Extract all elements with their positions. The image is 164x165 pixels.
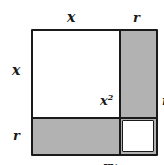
area-label-rx-right: rx <box>162 95 164 108</box>
outer-square-outline <box>31 29 158 156</box>
area-label-x-squared-exponent: 2 <box>108 92 114 102</box>
area-label-rx-bottom: rx <box>103 161 117 165</box>
completing-the-square-diagram: x r x r x2 rx rx r2 <box>0 0 164 165</box>
dimension-label-left-r: r <box>13 129 20 142</box>
dimension-label-top-r: r <box>133 11 140 24</box>
dimension-label-top-x: x <box>67 10 75 24</box>
square-figure: x2 rx rx r2 <box>33 31 156 154</box>
area-label-x-squared: x2 <box>100 94 113 107</box>
dimension-label-left-x: x <box>12 63 20 77</box>
area-label-x-squared-base: x <box>100 93 108 108</box>
